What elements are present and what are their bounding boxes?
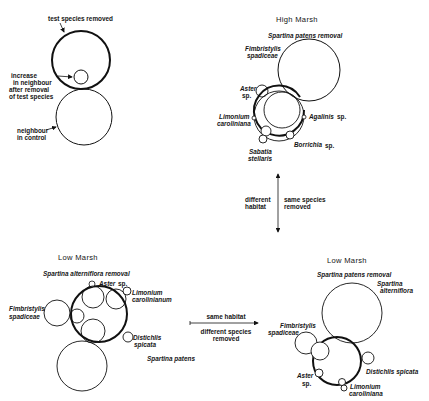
low-marsh-left-diagram (44, 281, 133, 391)
spartina-patens-circle (57, 341, 107, 391)
hm-aster-2: sp. (242, 92, 251, 99)
vertical-left-2: habitat (245, 203, 266, 210)
lmr-aster-2: sp. (302, 380, 311, 387)
hm-sabatia-2: stellaris (248, 155, 272, 162)
lml-fimbristylis-2: spadiceae (9, 313, 40, 320)
lml-limonium-2: carolinianum (132, 296, 172, 303)
hm-fimbristylis-2: spadiceae (247, 52, 278, 59)
hm-agalinis-sp: sp. (337, 113, 346, 120)
lml-distichlis-2: spicata (134, 341, 156, 348)
increase-circle (74, 70, 88, 84)
lml-removal: Spartina alterniflora removal (43, 270, 130, 277)
lmr-fimbristylis-2: spadiceae (268, 329, 299, 336)
hm-limonium-2: caroliniana (217, 120, 251, 127)
spartina-alterniflora-circle (322, 283, 382, 343)
horizontal-top: same habitat (196, 313, 256, 320)
high-marsh-removal: Spartina patens removal (268, 32, 342, 39)
lml-spartina-patens: Spartina patens (147, 355, 195, 362)
lmr-aster-1: Aster (297, 372, 313, 379)
hm-borrichia: Borrichia (294, 141, 322, 148)
legend-diagram (46, 23, 112, 145)
hm-agalinis: Agalinis (309, 113, 334, 120)
vertical-right-2: removed (284, 203, 311, 210)
low-marsh-right-title: Low Marsh (327, 256, 367, 265)
lml-fimbristylis-1: Fimbristylis (9, 305, 45, 312)
lml-aster-sp: sp. (118, 280, 127, 287)
low-marsh-left-title: Low Marsh (58, 253, 98, 262)
lml-aster: Aster (99, 280, 115, 287)
legend-neighbour-2: in control (17, 134, 46, 141)
legend-test-species-removed: test species removed (48, 15, 113, 22)
lmr-spartina-2: alterniflora (380, 287, 413, 294)
lmr-limonium-2: caroliniana (349, 390, 383, 397)
lmr-distichlis: Distichlis spicata (366, 368, 418, 375)
spartina-patens-circle (278, 39, 340, 101)
lmr-removal: Spartina patens removal (317, 271, 391, 278)
legend-increase-4: of test species (9, 93, 53, 100)
hm-borrichia-sp: sp. (325, 142, 334, 149)
high-marsh-title: High Marsh (276, 15, 318, 24)
horizontal-bottom-2: removed (190, 335, 262, 342)
neighbour-control-circle (56, 89, 112, 145)
